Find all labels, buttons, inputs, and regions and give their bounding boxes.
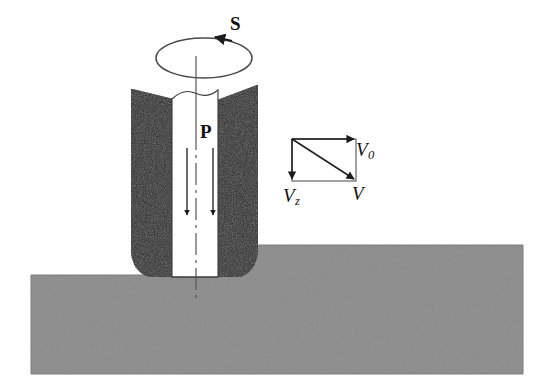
label-v0-base: V bbox=[356, 139, 368, 160]
label-v0-subscript: 0 bbox=[368, 148, 374, 162]
label-feed-velocity: V0 bbox=[356, 140, 374, 159]
rotation-ellipse bbox=[156, 37, 252, 78]
label-spindle-speed: S bbox=[230, 14, 241, 33]
label-vz-subscript: z bbox=[295, 194, 300, 208]
velocity-parallelogram bbox=[292, 139, 356, 181]
label-pressure: P bbox=[200, 122, 212, 141]
diagram-canvas: S P V0 V Vz bbox=[0, 0, 547, 388]
label-resultant-velocity: V bbox=[352, 184, 364, 203]
label-vertical-velocity: Vz bbox=[283, 186, 300, 205]
label-vz-base: V bbox=[283, 185, 295, 206]
rotating-tool bbox=[131, 85, 258, 277]
workpiece-slab bbox=[31, 245, 523, 374]
vector-v bbox=[292, 139, 354, 179]
diagram-graphics bbox=[0, 0, 547, 388]
